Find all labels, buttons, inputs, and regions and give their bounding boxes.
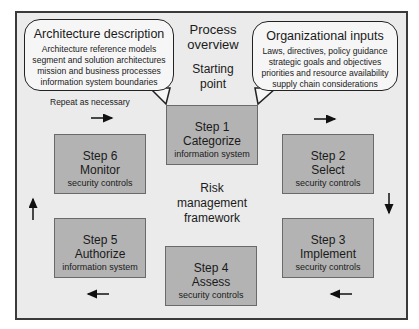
flow-arrows	[0, 0, 419, 329]
